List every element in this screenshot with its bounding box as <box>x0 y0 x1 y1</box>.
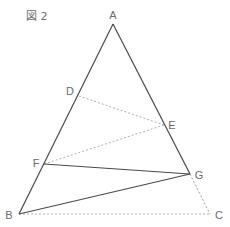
triangle-diagram: 図 2 A B C D E F G <box>0 0 230 227</box>
point-labels: A B C D E F G <box>5 9 223 221</box>
label-F: F <box>33 157 40 169</box>
segment-FG <box>44 164 190 174</box>
label-A: A <box>109 9 117 21</box>
segment-EF <box>44 125 164 164</box>
diagram-canvas: A B C D E F G <box>0 0 230 227</box>
segment-AB <box>19 24 113 214</box>
solid-segments <box>19 24 190 214</box>
figure-label: 図 2 <box>26 7 48 23</box>
segment-BG <box>19 174 190 214</box>
label-C: C <box>215 209 223 221</box>
segment-DE <box>79 96 164 125</box>
segment-AG <box>113 24 190 174</box>
label-B: B <box>5 209 12 221</box>
label-D: D <box>66 85 74 97</box>
label-G: G <box>195 169 204 181</box>
label-E: E <box>168 119 175 131</box>
